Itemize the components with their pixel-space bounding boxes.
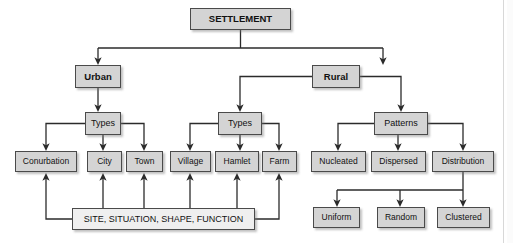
node-label-conurbation: Conurbation: [23, 157, 69, 166]
node-dispersed[interactable]: Dispersed: [371, 151, 426, 172]
node-label-random: Random: [385, 213, 417, 222]
edge-utypes-town: [121, 124, 144, 148]
node-label-patterns: Patterns: [384, 119, 418, 128]
node-conurbation[interactable]: Conurbation: [15, 151, 77, 172]
node-label-farm: Farm: [270, 157, 290, 166]
edge-utypes-conurbation: [46, 124, 85, 148]
edge-site-conurbation: [46, 177, 72, 219]
node-label-hamlet: Hamlet: [224, 157, 251, 166]
node-label-settlement: SETTLEMENT: [209, 14, 272, 24]
node-city[interactable]: City: [87, 151, 122, 172]
edge-rtypes-farm: [262, 124, 279, 148]
edge-patterns-distribution: [428, 124, 463, 148]
page-edge-shade: [507, 0, 513, 243]
edge-rural-patterns: [360, 77, 401, 109]
node-settlement[interactable]: SETTLEMENT: [190, 8, 291, 30]
node-urban-types[interactable]: Types: [85, 112, 121, 135]
node-urban[interactable]: Urban: [75, 65, 121, 88]
node-rural-types[interactable]: Types: [218, 112, 262, 135]
edge-patterns-nucleated: [338, 124, 374, 148]
node-label-rural: Rural: [324, 72, 348, 82]
edge-rtypes-village: [190, 124, 218, 148]
page-edge-line: [503, 0, 504, 243]
node-label-city: City: [97, 157, 112, 166]
node-label-site: SITE, SITUATION, SHAPE, FUNCTION: [84, 215, 243, 224]
node-label-town: Town: [135, 157, 155, 166]
node-distribution[interactable]: Distribution: [432, 151, 494, 172]
node-clustered[interactable]: Clustered: [437, 207, 490, 228]
node-site[interactable]: SITE, SITUATION, SHAPE, FUNCTION: [72, 208, 255, 230]
node-label-rural-types: Types: [228, 119, 252, 128]
node-label-distribution: Distribution: [442, 157, 485, 166]
node-label-uniform: Uniform: [322, 213, 352, 222]
node-label-urban-types: Types: [91, 119, 115, 128]
edge-site-farm: [255, 177, 279, 219]
edge-rural-types: [240, 77, 312, 109]
node-label-village: Village: [178, 157, 203, 166]
node-label-nucleated: Nucleated: [319, 157, 357, 166]
node-label-dispersed: Dispersed: [379, 157, 417, 166]
node-label-urban: Urban: [84, 72, 111, 82]
node-nucleated[interactable]: Nucleated: [311, 151, 366, 172]
node-random[interactable]: Random: [377, 207, 425, 228]
node-town[interactable]: Town: [126, 151, 163, 172]
node-patterns[interactable]: Patterns: [374, 112, 428, 135]
node-rural[interactable]: Rural: [312, 65, 360, 88]
node-label-clustered: Clustered: [445, 213, 481, 222]
diagram-canvas: SETTLEMENTUrbanRuralTypesTypesPatternsCo…: [0, 0, 513, 243]
node-uniform[interactable]: Uniform: [313, 207, 360, 228]
node-farm[interactable]: Farm: [262, 151, 297, 172]
node-village[interactable]: Village: [170, 151, 211, 172]
node-hamlet[interactable]: Hamlet: [215, 151, 259, 172]
